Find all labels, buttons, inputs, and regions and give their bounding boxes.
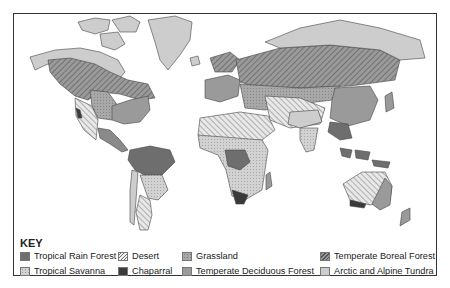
grassland-swatch-icon — [182, 252, 192, 261]
world-biome-map — [0, 0, 450, 288]
region-asia-boreal — [236, 45, 400, 88]
temperate-deciduous-forest-swatch-icon — [182, 267, 192, 276]
key-label: Temperate Boreal Forest — [334, 251, 435, 261]
key-item-desert: Desert — [118, 251, 159, 261]
chaparral-swatch-icon — [118, 267, 128, 276]
key-item-grassland: Grassland — [182, 251, 238, 261]
key-label: Desert — [132, 251, 159, 261]
key-item-tropical-rain-forest: Tropical Rain Forest — [20, 251, 116, 261]
tropical-rain-forest-swatch-icon — [20, 252, 30, 261]
region-greenland — [148, 16, 192, 70]
region-europe-deciduous — [205, 75, 240, 102]
key-label: Temperate Deciduous Forest — [196, 266, 314, 276]
key-label: Arctic and Alpine Tundra — [334, 266, 434, 276]
temperate-boreal-forest-swatch-icon — [320, 252, 330, 261]
key-title: KEY — [20, 237, 43, 249]
key-label: Grassland — [196, 251, 238, 261]
tropical-savanna-swatch-icon — [20, 267, 30, 276]
arctic-alpine-tundra-swatch-icon — [320, 267, 330, 276]
key-label: Tropical Rain Forest — [34, 251, 116, 261]
key-item-tropical-savanna: Tropical Savanna — [20, 266, 105, 276]
key-label: Chaparral — [132, 266, 172, 276]
key-item-arctic-alpine-tundra: Arctic and Alpine Tundra — [320, 266, 434, 276]
map-key: Tropical Rain Forest Desert Grassland Te… — [20, 251, 435, 279]
key-label: Tropical Savanna — [34, 266, 105, 276]
key-item-temperate-deciduous-forest: Temperate Deciduous Forest — [182, 266, 314, 276]
key-item-chaparral: Chaparral — [118, 266, 172, 276]
region-sa-savanna — [140, 175, 168, 200]
key-item-temperate-boreal-forest: Temperate Boreal Forest — [320, 251, 435, 261]
desert-swatch-icon — [118, 252, 128, 261]
region-na-deciduous — [112, 96, 150, 124]
